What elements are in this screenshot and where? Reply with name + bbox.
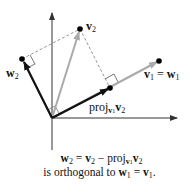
vector-w2: [24, 62, 52, 118]
label-v1-eq-w1: v1 = w1: [144, 68, 179, 82]
point-v2: [77, 26, 83, 32]
right-angle-proj: [105, 74, 118, 82]
caption-line-1: w2 = v2 − projv1v2: [6, 152, 191, 166]
caption-line-2: is orthogonal to w1 = v1.: [4, 166, 191, 180]
point-v1: [156, 58, 162, 64]
label-w2: w2: [6, 67, 19, 81]
point-proj: [107, 85, 113, 91]
label-proj: projv1v2: [89, 101, 125, 115]
right-angle-w2: [27, 55, 35, 68]
label-v2: v2: [86, 20, 96, 34]
point-w2: [19, 56, 25, 62]
